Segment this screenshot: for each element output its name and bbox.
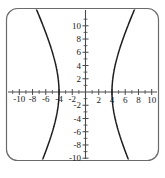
x-axis-tick-label: -8 bbox=[29, 94, 37, 104]
x-axis-tick-label: -10 bbox=[13, 94, 25, 104]
figure-container: -10-8-6-4-2246810 -10-8-6-4-2246810 bbox=[0, 0, 165, 178]
y-axis-tick-label: 2 bbox=[77, 74, 82, 84]
y-axis-tick-label: 8 bbox=[77, 34, 82, 44]
y-axis-tick-label: -4 bbox=[74, 114, 82, 124]
x-axis-tick-label: 10 bbox=[147, 95, 157, 105]
plot-background bbox=[0, 0, 165, 178]
y-axis-tick-label: -10 bbox=[69, 153, 81, 163]
x-axis-tick-label: 8 bbox=[136, 95, 141, 105]
x-axis-tick-label: -6 bbox=[42, 94, 50, 104]
y-axis-tick-label: -6 bbox=[74, 127, 82, 137]
y-axis-tick-label: -8 bbox=[74, 140, 82, 150]
y-axis-tick-label: 4 bbox=[77, 61, 82, 71]
y-axis-tick-label: 6 bbox=[77, 47, 82, 57]
y-axis-tick-label: 10 bbox=[72, 21, 82, 31]
x-axis-tick-label: 2 bbox=[96, 95, 101, 105]
x-axis-tick-label: 6 bbox=[123, 95, 128, 105]
coordinate-plane-plot: -10-8-6-4-2246810 -10-8-6-4-2246810 bbox=[0, 0, 165, 178]
y-axis-tick-label: -2 bbox=[74, 100, 82, 110]
